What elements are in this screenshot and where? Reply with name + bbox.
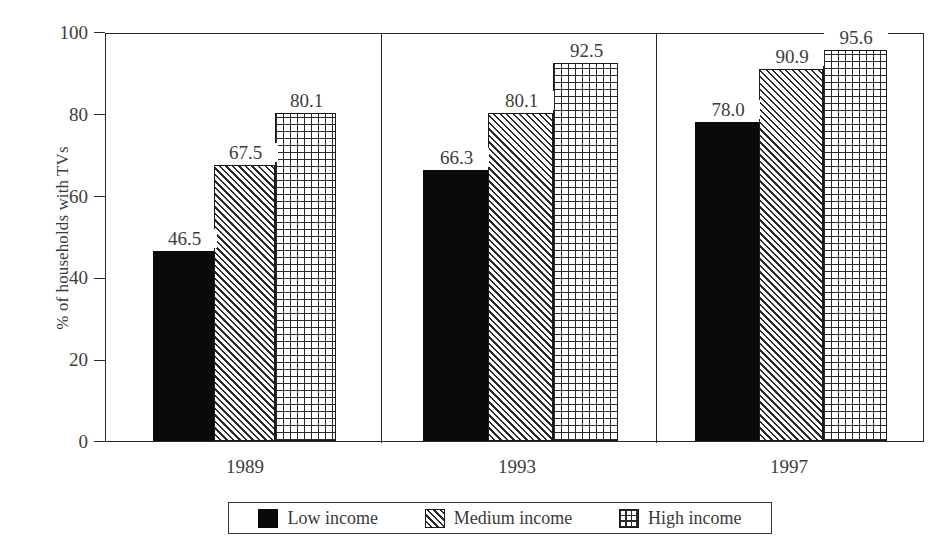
y-tick-mark xyxy=(94,278,105,279)
cross-hatch-swatch-icon xyxy=(619,509,639,528)
bar-value-label: 90.9 xyxy=(760,47,824,66)
bar-value-label: 46.5 xyxy=(153,229,217,248)
group-divider-2 xyxy=(656,34,657,443)
bar-value-label: 80.1 xyxy=(275,91,339,110)
group-divider-1 xyxy=(381,34,382,443)
y-tick-mark xyxy=(94,114,105,115)
bar-medium-income-1993 xyxy=(488,113,553,441)
diagonal-hatch-swatch-icon xyxy=(425,509,445,528)
legend-item-high-income[interactable]: High income xyxy=(619,508,741,529)
bar-low-income-1993 xyxy=(423,170,488,441)
y-tick-mark xyxy=(94,196,105,197)
y-tick-label: 40 xyxy=(28,267,88,289)
bar-value-label: 95.6 xyxy=(824,28,888,47)
x-category-label-1997: 1997 xyxy=(739,456,839,478)
x-category-label-1989: 1989 xyxy=(195,456,295,478)
y-tick-label: 80 xyxy=(28,104,88,126)
bar-value-label: 66.3 xyxy=(425,148,489,167)
y-tick-label: 100 xyxy=(28,22,88,44)
bar-low-income-1989 xyxy=(153,251,214,441)
y-tick-mark xyxy=(94,32,105,33)
chart-root: % of households with TVs 020406080100 46… xyxy=(0,0,942,560)
legend-label-medium-income: Medium income xyxy=(454,508,572,529)
bar-medium-income-1997 xyxy=(759,69,823,441)
legend-item-low-income[interactable]: Low income xyxy=(258,508,377,529)
y-tick-label: 20 xyxy=(28,349,88,371)
legend-label-low-income: Low income xyxy=(287,508,377,529)
y-tick-label: 0 xyxy=(28,431,88,453)
bar-high-income-1989 xyxy=(275,113,336,441)
y-tick-mark xyxy=(94,360,105,361)
bar-medium-income-1989 xyxy=(214,165,275,441)
legend-item-medium-income[interactable]: Medium income xyxy=(425,508,572,529)
bar-value-label: 92.5 xyxy=(555,41,619,60)
x-category-label-1993: 1993 xyxy=(467,456,567,478)
bar-high-income-1993 xyxy=(553,63,618,441)
bar-low-income-1997 xyxy=(695,122,759,441)
solid-black-swatch-icon xyxy=(258,509,278,528)
bar-value-label: 80.1 xyxy=(490,91,554,110)
y-tick-mark xyxy=(94,441,105,442)
legend-label-high-income: High income xyxy=(648,508,741,529)
y-axis-title: % of households with TVs xyxy=(53,88,73,388)
chart-legend: Low income Medium income High income xyxy=(228,502,772,534)
bar-value-label: 78.0 xyxy=(696,100,760,119)
bar-value-label: 67.5 xyxy=(214,143,278,162)
y-tick-label: 60 xyxy=(28,186,88,208)
bar-high-income-1997 xyxy=(823,50,887,441)
